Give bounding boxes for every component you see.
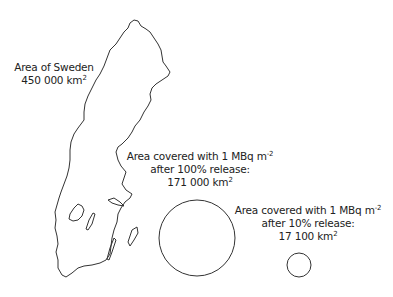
lake-vattern (86, 213, 95, 230)
label-100-percent-release: Area covered with 1 MBq m-2 after 100% r… (125, 150, 275, 189)
label-100-subtitle: after 100% release: (125, 163, 275, 176)
label-100-title: Area covered with 1 MBq m-2 (125, 150, 275, 163)
sweden-outline (55, 20, 170, 277)
circle-100-percent-release (159, 200, 235, 276)
circle-10-percent-release (287, 253, 311, 277)
label-100-value: 171 000 km2 (125, 176, 275, 189)
label-10-percent-release: Area covered with 1 MBq m-2 after 10% re… (234, 204, 382, 243)
island-gotland (128, 227, 138, 246)
lake-vanern (69, 204, 84, 221)
label-sweden-value: 450 000 km2 (12, 74, 96, 87)
label-10-title: Area covered with 1 MBq m-2 (234, 204, 382, 217)
diagram-canvas (0, 0, 393, 297)
label-10-subtitle: after 10% release: (234, 217, 382, 230)
label-area-of-sweden: Area of Sweden 450 000 km2 (12, 61, 96, 87)
lake-malaren (108, 198, 124, 206)
label-10-value: 17 100 km2 (234, 230, 382, 243)
label-sweden-title: Area of Sweden (12, 61, 96, 74)
